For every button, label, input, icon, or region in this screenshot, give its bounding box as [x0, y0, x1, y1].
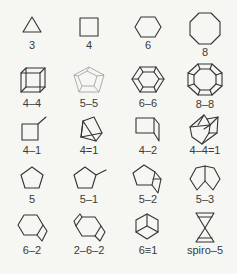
cell-6: 6 — [120, 14, 176, 68]
cell-4-2: 4–2 — [120, 115, 176, 169]
shape-label: 8 — [202, 46, 208, 58]
cell-5-5: 5–5 — [61, 64, 117, 118]
square-with-wedge-icon — [128, 115, 168, 147]
shape-label: 6–2 — [23, 244, 41, 256]
shape-label: 5–2 — [139, 193, 157, 205]
cell-6=1: 6≡1 — [120, 212, 176, 266]
cell-4-4: 4–4 — [4, 64, 60, 118]
shape-label: 8–8 — [196, 98, 214, 110]
cell-5-1: 5–1 — [61, 162, 117, 216]
cage-polycycle-icon — [184, 113, 226, 147]
shape-label: 3 — [29, 39, 35, 51]
shape-label: 4–4 — [23, 97, 41, 109]
shape-label: 5 — [29, 193, 35, 205]
shape-label: 4 — [86, 39, 92, 51]
cell-2-6-2: 2–6–2 — [61, 212, 117, 266]
shape-label: 5–3 — [196, 193, 214, 205]
shape-label: 4=1 — [80, 144, 99, 156]
cube-icon — [14, 64, 50, 98]
shape-label: 6–6 — [139, 97, 157, 109]
shape-label: 5–5 — [80, 97, 98, 109]
polycycle-figure: 3 4 6 8 4–4 — [0, 0, 237, 274]
shape-label: 4–2 — [139, 144, 157, 156]
pentagonal-prism-icon — [69, 64, 109, 98]
cell-spiro-5: spiro–5 — [177, 210, 233, 264]
pentagon-icon — [12, 162, 52, 194]
pentagon-fused-square-icon — [128, 162, 168, 196]
cell-4-1: 4–1 — [4, 115, 60, 169]
shape-label: 4–4=1 — [190, 144, 221, 156]
cell-6-2: 6–2 — [4, 212, 60, 266]
cell-5: 5 — [4, 162, 60, 216]
cell-4-4=1: 4–4=1 — [177, 113, 233, 167]
shape-label: 6≡1 — [139, 244, 158, 256]
cell-3: 3 — [4, 14, 60, 68]
octagonal-prism-icon — [184, 62, 226, 98]
hexagonal-prism-icon — [128, 64, 168, 98]
cell-5-2: 5–2 — [120, 162, 176, 216]
hexagon-fused-rhombus-icon — [12, 212, 52, 246]
pentagon-with-tail-icon — [67, 162, 111, 194]
cell-4: 4 — [61, 14, 117, 68]
shape-label: 2–6–2 — [74, 244, 105, 256]
spiro-bowtie-icon — [184, 210, 226, 246]
bicyclic-hexagon-icon — [128, 212, 168, 246]
bicyclic-square-icon — [69, 115, 109, 147]
cell-4=1: 4=1 — [61, 115, 117, 169]
shape-label: spiro–5 — [187, 244, 223, 256]
fused-pentagons-icon — [184, 162, 226, 196]
hexagon-two-rhombi-icon — [68, 212, 110, 246]
octagon-icon — [185, 10, 225, 48]
cell-8-8: 8–8 — [177, 62, 233, 116]
square-with-tail-icon — [12, 115, 52, 147]
shape-label: 6 — [145, 39, 151, 51]
cell-8: 8 — [177, 10, 233, 64]
cell-6-6: 6–6 — [120, 64, 176, 118]
shape-label: 4–1 — [23, 144, 41, 156]
cell-5-3: 5–3 — [177, 162, 233, 216]
shape-label: 5–1 — [80, 193, 98, 205]
